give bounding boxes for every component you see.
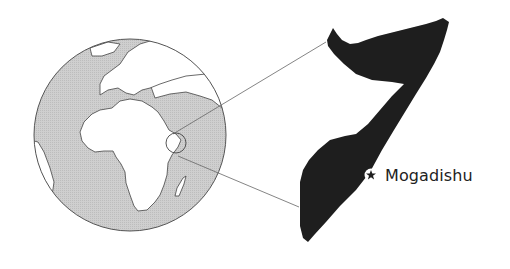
capital-label: Mogadishu xyxy=(385,166,473,185)
locator-map xyxy=(0,0,510,269)
star-icon xyxy=(365,169,378,182)
globe xyxy=(30,36,226,231)
somalia-silhouette xyxy=(300,18,449,242)
